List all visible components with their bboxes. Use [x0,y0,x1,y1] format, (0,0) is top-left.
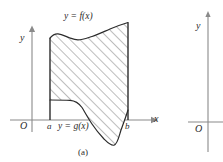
figure-drawing [0,0,223,162]
right-panel-y-axis-label: y [196,21,200,31]
curve-label-f: y = f(x) [64,12,93,22]
right-panel-origin-label: O [195,124,202,134]
figure-caption: (a) [78,148,88,157]
tick-label-a: a [47,122,52,131]
origin-label: O [20,121,27,131]
tick-label-b: b [125,122,130,131]
y-axis-label: y [20,33,24,43]
y-axis [29,26,35,133]
x-axis-label: x [154,114,158,124]
right-panel-axes [188,11,223,152]
figure-container: y x O a b y = f(x) y = g(x) y O (a) [0,0,223,162]
curve-label-g: y = g(x) [58,122,89,132]
shaded-region [40,10,140,160]
